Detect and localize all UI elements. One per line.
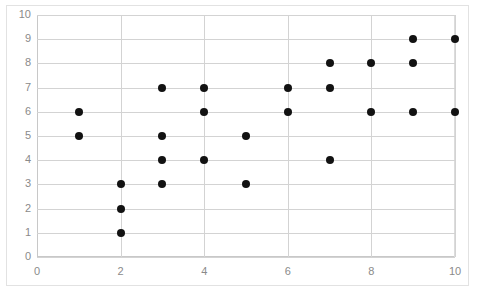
data-point[interactable] [200,156,208,164]
x-tick-label: 6 [273,266,303,277]
plot-area [37,15,455,257]
gridline-horizontal [37,15,455,16]
x-tick-label: 4 [189,266,219,277]
data-point[interactable] [242,132,250,140]
gridline-vertical [455,15,456,257]
data-point[interactable] [158,156,166,164]
gridline-horizontal [37,257,455,258]
data-point[interactable] [326,84,334,92]
data-point[interactable] [326,59,334,67]
y-tick-label: 3 [7,178,31,189]
data-point[interactable] [158,180,166,188]
data-point[interactable] [409,35,417,43]
x-tick-label: 0 [22,266,52,277]
y-tick-label: 2 [7,203,31,214]
scatter-chart: 012345678910 0246810 [0,0,477,294]
y-tick-label: 8 [7,57,31,68]
data-point[interactable] [117,205,125,213]
data-point[interactable] [200,84,208,92]
data-point[interactable] [284,108,292,116]
data-point[interactable] [117,180,125,188]
data-point[interactable] [451,108,459,116]
gridline-vertical [288,15,289,257]
gridline-vertical [121,15,122,257]
gridline-horizontal [37,209,455,210]
x-tick-label: 2 [106,266,136,277]
gridline-horizontal [37,160,455,161]
gridline-horizontal [37,88,455,89]
data-point[interactable] [75,108,83,116]
y-tick-label: 7 [7,82,31,93]
x-axis-tick-labels: 0246810 [37,266,455,282]
data-point[interactable] [158,84,166,92]
gridline-horizontal [37,233,455,234]
y-tick-label: 4 [7,154,31,165]
data-point[interactable] [367,59,375,67]
y-tick-label: 1 [7,227,31,238]
data-point[interactable] [284,84,292,92]
y-tick-label: 10 [7,9,31,20]
y-tick-label: 5 [7,130,31,141]
y-axis-tick-labels: 012345678910 [5,15,31,257]
x-tick-label: 10 [440,266,470,277]
y-tick-label: 0 [7,251,31,262]
data-point[interactable] [242,180,250,188]
y-tick-label: 9 [7,33,31,44]
data-point[interactable] [326,156,334,164]
data-point[interactable] [158,132,166,140]
x-tick-label: 8 [356,266,386,277]
data-point[interactable] [117,229,125,237]
data-point[interactable] [409,59,417,67]
gridline-horizontal [37,39,455,40]
data-point[interactable] [200,108,208,116]
data-point[interactable] [451,35,459,43]
gridline-horizontal [37,112,455,113]
data-point[interactable] [75,132,83,140]
y-tick-label: 6 [7,106,31,117]
gridline-vertical [371,15,372,257]
data-point[interactable] [367,108,375,116]
data-point[interactable] [409,108,417,116]
gridline-vertical [204,15,205,257]
gridline-horizontal [37,63,455,64]
